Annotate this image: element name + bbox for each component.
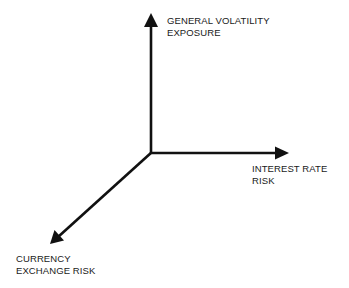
vertical-axis-label: GENERAL VOLATILITY EXPOSURE	[167, 15, 270, 39]
vertical-axis-label-line-2: EXPOSURE	[167, 27, 270, 39]
horizontal-axis-label: INTEREST RATE RISK	[252, 163, 327, 187]
diagonal-axis-line	[58, 152, 152, 237]
vertical-axis-label-line-1: GENERAL VOLATILITY	[167, 15, 270, 27]
axes-diagram	[0, 0, 349, 288]
diagonal-axis-label-line-1: CURRENCY	[16, 253, 95, 265]
horizontal-axis-label-line-1: INTEREST RATE	[252, 163, 327, 175]
vertical-arrowhead-icon	[144, 13, 158, 27]
horizontal-arrowhead-icon	[275, 147, 289, 160]
horizontal-axis-label-line-2: RISK	[252, 175, 327, 187]
diagonal-axis-label: CURRENCY EXCHANGE RISK	[16, 253, 95, 277]
diagonal-axis-label-line-2: EXCHANGE RISK	[16, 265, 95, 277]
